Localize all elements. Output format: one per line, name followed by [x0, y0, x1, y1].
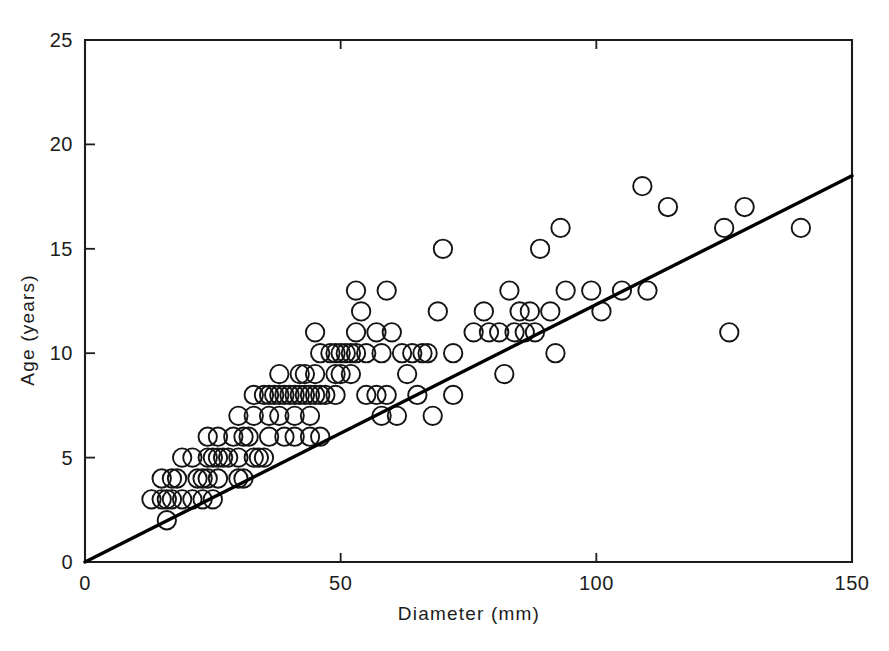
x-axis-tick-labels: 050100150: [79, 572, 869, 594]
data-point: [582, 281, 600, 299]
x-axis-ticks: [341, 40, 597, 562]
data-point: [500, 281, 518, 299]
data-point: [551, 219, 569, 237]
data-point: [424, 407, 442, 425]
x-tick-label: 100: [579, 572, 614, 594]
data-point: [715, 219, 733, 237]
x-tick-label: 50: [329, 572, 352, 594]
data-point: [434, 240, 452, 258]
x-tick-label: 150: [835, 572, 870, 594]
data-point: [199, 469, 217, 487]
x-tick-label: 0: [79, 572, 91, 594]
data-point: [153, 490, 171, 508]
scatter-plot: 050100150 0510152025 Diameter (mm) Age (…: [0, 0, 889, 651]
data-point: [209, 448, 227, 466]
data-point: [556, 281, 574, 299]
data-point: [398, 365, 416, 383]
figure-container: 050100150 0510152025 Diameter (mm) Age (…: [0, 0, 889, 651]
data-point: [352, 302, 370, 320]
y-axis-tick-labels: 0510152025: [50, 29, 73, 573]
data-point: [367, 386, 385, 404]
y-tick-label: 20: [50, 133, 73, 155]
data-point: [270, 365, 288, 383]
data-point: [250, 448, 268, 466]
y-axis-ticks: [85, 144, 95, 457]
data-point: [429, 302, 447, 320]
data-point: [413, 344, 431, 362]
data-point: [510, 302, 528, 320]
data-point: [173, 448, 191, 466]
data-point: [347, 281, 365, 299]
y-tick-label: 5: [61, 447, 73, 469]
y-tick-label: 10: [50, 342, 73, 364]
data-point: [163, 490, 181, 508]
data-point: [393, 344, 411, 362]
data-point: [234, 428, 252, 446]
data-point: [255, 448, 273, 466]
data-point: [188, 469, 206, 487]
data-point: [531, 240, 549, 258]
y-tick-label: 25: [50, 29, 73, 51]
data-point: [735, 198, 753, 216]
data-point: [720, 323, 738, 341]
data-point: [163, 469, 181, 487]
data-point: [296, 365, 314, 383]
data-point: [444, 344, 462, 362]
y-axis-title: Age (years): [17, 274, 38, 385]
data-point: [541, 302, 559, 320]
data-point: [633, 177, 651, 195]
regression-line: [85, 176, 852, 562]
data-point: [357, 386, 375, 404]
y-tick-label: 0: [61, 551, 73, 573]
data-point: [521, 302, 539, 320]
data-point: [659, 198, 677, 216]
data-point: [792, 219, 810, 237]
data-point: [377, 281, 395, 299]
data-points-group: [142, 177, 810, 529]
data-point: [377, 386, 395, 404]
data-point: [638, 281, 656, 299]
data-point: [495, 365, 513, 383]
data-point: [546, 344, 564, 362]
data-point: [347, 323, 365, 341]
data-point: [444, 386, 462, 404]
x-axis-title: Diameter (mm): [398, 603, 540, 624]
data-point: [331, 365, 349, 383]
data-point: [199, 428, 217, 446]
y-tick-label: 15: [50, 238, 73, 260]
data-point: [475, 302, 493, 320]
data-point: [306, 323, 324, 341]
